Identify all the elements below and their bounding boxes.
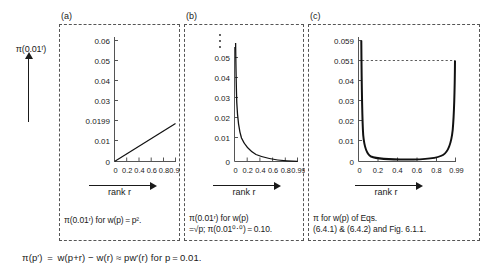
panel-b-xtick-3: 0.6 (268, 166, 278, 175)
panel-c-tag: (c) (310, 11, 321, 21)
panel-b-rank-arrow-icon (213, 185, 275, 186)
panel-a-plot: 0.06 0.05 0.04 0.03 0.0199 0.01 0 (60, 25, 179, 185)
panel-a-tag: (a) (61, 11, 72, 21)
panel-a-ytick-0: 0.06 (94, 37, 110, 46)
panel-b-plot: 0.05 0.04 0.03 0.02 0.01 0 (185, 25, 303, 185)
panel-a-caption: π(0.01ʳ) for w(p) = p². (64, 215, 177, 226)
panel-c-xtick-3: 0.6 (412, 166, 422, 175)
panel-c-rank-arrow-icon (355, 185, 417, 186)
panel-a-y-ticks (115, 41, 119, 141)
panel-c: (c) 0.059 0.051 0.04 0.03 0.02 0.01 0 (308, 24, 480, 241)
panel-a-xtick-5: 0.99 (169, 166, 180, 175)
panel-b-caption-line1: π(0.01ʳ) for w(p) (189, 213, 301, 224)
panel-a-xtick-4: 0.8 (159, 166, 169, 175)
panel-c-ytick-4: 0.02 (338, 117, 354, 126)
panel-b-xtick-2: 0.4 (255, 166, 265, 175)
panel-b-xtick-4: 0.8 (281, 166, 291, 175)
panel-c-ytick-1: 0.051 (334, 57, 355, 66)
panel-b-ytick-1: 0.04 (214, 74, 230, 83)
panel-c-xtick-1: 0.2 (373, 166, 383, 175)
panel-c-xtick-5: 0.99 (449, 166, 463, 175)
panel-b-xtick-5: 0.99 (291, 166, 305, 175)
panel-c-xtick-2: 0.4 (392, 166, 402, 175)
panel-b-rank-block: rank r (185, 185, 303, 197)
panel-c-caption-line2: (6.4.1) & (6.4.2) and Fig. 6.1.1. (313, 224, 477, 235)
panel-b-ytick-0: 0.05 (214, 54, 230, 63)
panel-c-ytick-6: 0 (350, 158, 355, 167)
panel-b-ytick-2: 0.03 (214, 94, 230, 103)
panel-a-rank-block: rank r (60, 185, 179, 197)
panel-a-xtick-1: 0.2 (122, 166, 132, 175)
panel-b-tag: (b) (186, 11, 197, 21)
panel-b: (b) 0.05 0.04 0.03 0.02 0.01 0 (184, 24, 304, 241)
panel-a-xtick-3: 0.6 (147, 166, 157, 175)
panel-a: (a) 0.06 0.05 0.04 0.03 0.0199 0.01 0 (59, 24, 180, 241)
panel-b-chart: 0.05 0.04 0.03 0.02 0.01 0 (185, 25, 305, 185)
figure-root: π(0.01ʳ) (a) 0.06 0.05 0.04 0.03 0.0199 … (0, 0, 485, 274)
panel-b-rank-label: rank r (185, 187, 303, 197)
panel-a-ytick-6: 0 (106, 158, 111, 167)
panel-a-rank-arrow-icon (89, 185, 151, 186)
panel-a-ytick-4: 0.0199 (86, 117, 111, 126)
panel-c-rank-label: rank r (301, 187, 471, 197)
panel-a-xtick-0: 0 (113, 166, 117, 175)
panel-c-chart: 0.059 0.051 0.04 0.03 0.02 0.01 0 (309, 25, 481, 185)
panel-a-ytick-3: 0.03 (94, 97, 110, 106)
panel-a-x-ticks (127, 158, 176, 162)
panel-b-xtick-1: 0.2 (243, 166, 253, 175)
panel-c-ytick-5: 0.01 (338, 137, 354, 146)
panel-a-chart: 0.06 0.05 0.04 0.03 0.0199 0.01 0 (60, 25, 180, 185)
panel-a-rank-label: rank r (60, 187, 179, 197)
y-axis-arrow-icon (28, 58, 29, 122)
panel-b-xtick-0: 0 (233, 166, 237, 175)
panel-c-ytick-3: 0.03 (338, 97, 354, 106)
panel-a-ytick-2: 0.04 (94, 77, 110, 86)
panel-c-caption: π for w(p) of Eqs. (6.4.1) & (6.4.2) and… (313, 213, 477, 235)
panel-c-caption-line1: π for w(p) of Eqs. (313, 213, 477, 224)
panel-c-plot: 0.059 0.051 0.04 0.03 0.02 0.01 0 (309, 25, 479, 185)
panel-b-series-line (236, 43, 298, 161)
panel-a-ytick-5: 0.01 (94, 137, 110, 146)
panel-b-ytick-3: 0.02 (214, 114, 230, 123)
panel-c-ytick-0: 0.059 (334, 37, 355, 46)
panel-b-ytick-4: 0.01 (214, 134, 230, 143)
panel-a-series-line (115, 124, 176, 162)
panel-b-caption: π(0.01ʳ) for w(p) =√p; π(0.01⁰⋅⁰) = 0.10… (189, 213, 301, 235)
panel-c-ytick-2: 0.04 (338, 77, 354, 86)
panel-c-series-line (361, 41, 455, 160)
panel-c-xtick-4: 0.8 (431, 166, 441, 175)
panel-c-xtick-0: 0 (357, 166, 361, 175)
panel-c-rank-block: rank r (301, 185, 471, 197)
panel-b-ytick-5: 0 (226, 158, 231, 167)
panel-b-caption-line2: =√p; π(0.01⁰⋅⁰) = 0.10. (189, 224, 301, 235)
panel-b-axis-break-ellipsis-icon (219, 34, 221, 48)
panel-a-xtick-2: 0.4 (134, 166, 144, 175)
bottom-formula: π(p′) = w(p+r) − w(r) ≈ pw′(r) for p = 0… (22, 252, 202, 263)
panel-a-ytick-1: 0.05 (94, 57, 110, 66)
